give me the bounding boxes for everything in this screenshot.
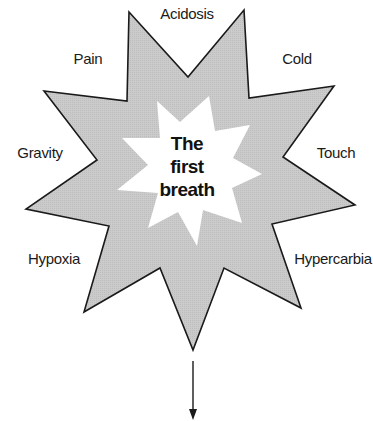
down-arrow-icon — [189, 361, 197, 420]
label-hypoxia: Hypoxia — [28, 250, 81, 267]
label-pain: Pain — [74, 50, 103, 67]
label-gravity: Gravity — [17, 144, 63, 161]
first-breath-diagram: The first breath Acidosis Pain Cold Grav… — [0, 0, 373, 421]
label-hypercarbia: Hypercarbia — [294, 250, 373, 267]
label-acidosis: Acidosis — [160, 5, 213, 22]
label-cold: Cold — [282, 50, 312, 67]
center-title-line-2: first — [170, 156, 205, 177]
center-title-line-1: The — [171, 133, 203, 154]
center-title-line-3: breath — [159, 179, 214, 200]
label-touch: Touch — [317, 144, 356, 161]
